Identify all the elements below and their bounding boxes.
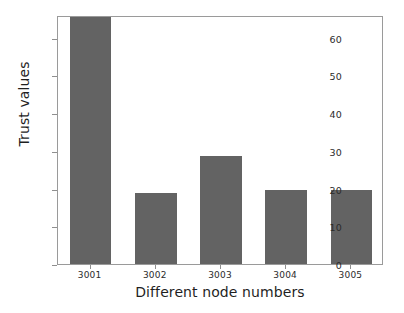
y-tick-mark	[52, 227, 57, 228]
x-tick-label: 3001	[78, 270, 102, 280]
bar-3004	[265, 17, 307, 264]
x-tick-mark	[220, 265, 221, 269]
bar-rect	[135, 193, 177, 264]
bar-rect	[200, 156, 242, 264]
y-tick-mark	[52, 39, 57, 40]
y-tick-label: 0	[336, 260, 342, 271]
y-tick-label: 30	[330, 146, 343, 157]
x-tick-label: 3003	[208, 270, 232, 280]
y-tick-label: 10	[330, 222, 343, 233]
y-tick-mark	[52, 152, 57, 153]
bar-3003	[200, 17, 242, 264]
bar-rect	[70, 17, 112, 264]
y-tick-label: 50	[330, 71, 343, 82]
chart-figure: 0102030405060 30013002300330043005 Diffe…	[0, 0, 404, 313]
x-tick-mark	[90, 265, 91, 269]
bar-3001	[70, 17, 112, 264]
x-tick-label: 3005	[339, 270, 363, 280]
y-axis-title: Trust values	[16, 34, 32, 174]
y-tick-mark	[52, 190, 57, 191]
y-tick-label: 20	[330, 184, 343, 195]
y-tick-label: 40	[330, 109, 343, 120]
x-axis-title: Different node numbers	[57, 284, 383, 300]
y-tick-mark	[52, 76, 57, 77]
bar-3002	[135, 17, 177, 264]
x-tick-label: 3004	[273, 270, 297, 280]
x-tick-mark	[155, 265, 156, 269]
x-tick-label: 3002	[143, 270, 167, 280]
x-tick-mark	[350, 265, 351, 269]
bar-rect	[265, 190, 307, 264]
x-tick-mark	[285, 265, 286, 269]
y-tick-label: 60	[330, 33, 343, 44]
y-tick-mark	[52, 114, 57, 115]
y-tick-mark	[52, 265, 57, 266]
